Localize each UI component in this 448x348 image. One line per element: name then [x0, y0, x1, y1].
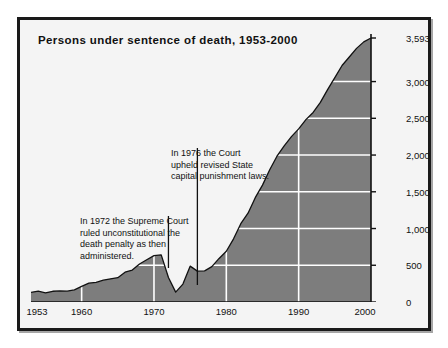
x-tick-label-1953: 1953 — [26, 306, 47, 317]
annotation-1972-line-1: In 1972 the Supreme Court — [80, 216, 189, 228]
y-tick-label-1500: 1,500 — [406, 186, 430, 197]
annotation-1972-line-4: administered. — [80, 251, 189, 263]
annotation-1976-line-2: upheld revised State — [171, 160, 269, 172]
annotation-1972-line-2: ruled unconstitutional the — [80, 228, 189, 240]
x-tick-label-1980: 1980 — [216, 306, 237, 317]
y-tick-label-500: 500 — [406, 260, 422, 271]
x-axis-labels: 195319601970198019902000 — [20, 306, 428, 326]
chart-figure: Persons under sentence of death, 1953-20… — [17, 17, 431, 331]
y-tick-label-1000: 1,000 — [406, 223, 430, 234]
annotation-1976: In 1976 the Court upheld revised State c… — [171, 148, 269, 183]
annotation-1972-line-3: death penalty as then — [80, 239, 189, 251]
x-tick-label-2000: 2000 — [354, 306, 375, 317]
x-tick-label-1970: 1970 — [143, 306, 164, 317]
annotation-1976-line-1: In 1976 the Court — [171, 148, 269, 160]
y-tick-label-2000: 2,000 — [406, 150, 430, 161]
y-tick-label-3000: 3,000 — [406, 76, 430, 87]
y-axis-labels: 05001,0001,5002,0002,5003,0003,593 — [402, 20, 448, 328]
y-tick-label-3593: 3,593 — [406, 33, 430, 44]
annotation-1972: In 1972 the Supreme Court ruled unconsti… — [80, 216, 189, 262]
x-tick-label-1960: 1960 — [71, 306, 92, 317]
annotation-1976-line-3: capital punishment laws. — [171, 171, 269, 183]
x-tick-label-1990: 1990 — [288, 306, 309, 317]
y-tick-label-2500: 2,500 — [406, 113, 430, 124]
